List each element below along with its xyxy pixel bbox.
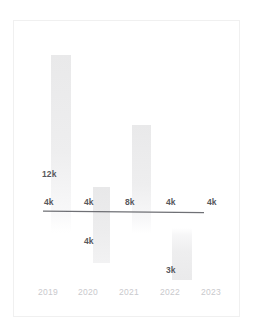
value-label-2019-above: 12k — [42, 169, 56, 179]
x-tick-label-2022: 2022 — [160, 287, 180, 297]
x-tick-label-2023: 2023 — [201, 287, 221, 297]
value-label-2023-above: 4k — [207, 197, 217, 207]
chart-card: 12k 4k 4k 8k 4k 4k 4k 3k 2019 2020 2021 … — [13, 20, 240, 317]
value-label-2022-below: 3k — [166, 265, 176, 275]
bar-2020[interactable] — [93, 187, 110, 263]
x-tick-label-2019: 2019 — [38, 287, 58, 297]
x-tick-label-2020: 2020 — [78, 287, 98, 297]
bar-2021[interactable] — [132, 125, 151, 233]
value-label-2022-above: 4k — [166, 197, 176, 207]
bar-2019[interactable] — [51, 55, 71, 233]
axis-line — [43, 210, 204, 214]
plot-area: 12k 4k 4k 8k 4k 4k 4k 3k 2019 2020 2021 … — [14, 21, 241, 318]
value-label-2019-axis: 4k — [44, 197, 54, 207]
value-label-2020-below: 4k — [84, 236, 94, 246]
value-label-2021-above: 8k — [125, 197, 135, 207]
x-tick-label-2021: 2021 — [119, 287, 139, 297]
value-label-2020-above: 4k — [84, 197, 94, 207]
